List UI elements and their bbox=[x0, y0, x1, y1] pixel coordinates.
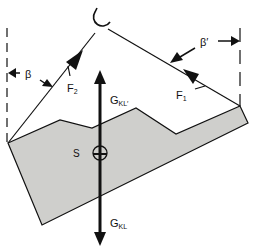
gravity-up-arrowhead bbox=[94, 70, 106, 84]
force-f2-tick bbox=[68, 66, 70, 76]
label-beta-left: β bbox=[25, 68, 31, 80]
force-diagram: β β′ F2 F1 S GKL′ GKL bbox=[0, 0, 254, 252]
hook-icon bbox=[93, 8, 110, 26]
label-gravity-down: GKL bbox=[110, 217, 127, 230]
label-beta-right: β′ bbox=[200, 36, 208, 48]
gravity-down-arrowhead bbox=[94, 232, 106, 246]
force-f1-arrowhead bbox=[183, 69, 199, 84]
force-f1-tick bbox=[195, 86, 205, 89]
load-body bbox=[8, 106, 248, 225]
label-gravity-up: GKL′ bbox=[110, 94, 129, 107]
label-center-of-gravity: S bbox=[73, 148, 80, 159]
label-force-f2: F2 bbox=[67, 82, 78, 95]
label-force-f1: F1 bbox=[176, 89, 187, 102]
